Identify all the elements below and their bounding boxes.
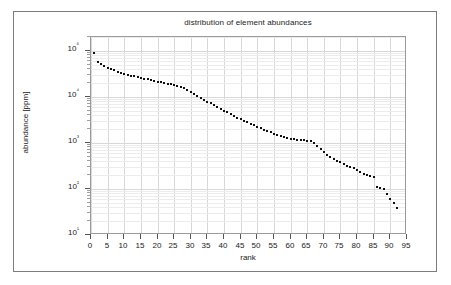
data-point xyxy=(93,52,95,54)
data-point xyxy=(296,139,298,141)
data-point xyxy=(193,93,195,95)
x-axis-tick xyxy=(323,234,324,239)
x-axis-tick xyxy=(273,234,274,239)
data-point xyxy=(303,139,305,141)
data-point xyxy=(173,84,175,86)
data-point xyxy=(300,139,302,141)
data-point xyxy=(389,198,391,200)
data-point xyxy=(329,156,331,158)
data-point xyxy=(140,77,142,79)
data-point xyxy=(276,134,278,136)
data-point xyxy=(117,71,119,73)
grid-line-horizontal-minor xyxy=(91,221,405,222)
data-point xyxy=(210,102,212,104)
data-point xyxy=(369,175,371,177)
data-point xyxy=(336,160,338,162)
grid-line-horizontal-minor xyxy=(91,83,405,84)
grid-line-horizontal-minor xyxy=(91,213,405,214)
data-point xyxy=(176,85,178,87)
x-axis-tick xyxy=(123,234,124,239)
data-point xyxy=(130,75,132,77)
grid-line-horizontal-minor xyxy=(91,37,405,38)
data-point xyxy=(233,115,235,117)
data-point xyxy=(253,124,255,126)
data-point xyxy=(383,188,385,190)
grid-line-horizontal xyxy=(91,51,405,52)
x-axis-tick xyxy=(373,234,374,239)
grid-line-horizontal-minor xyxy=(91,203,405,204)
x-axis-tick-label: 95 xyxy=(394,241,418,250)
x-axis-tick xyxy=(223,234,224,239)
data-point xyxy=(290,138,292,140)
data-point xyxy=(353,167,355,169)
data-point xyxy=(366,174,368,176)
x-axis-tick xyxy=(356,234,357,239)
data-point xyxy=(196,95,198,97)
data-point xyxy=(339,161,341,163)
grid-line-horizontal-minor xyxy=(91,101,405,102)
grid-line-horizontal xyxy=(91,143,405,144)
data-point xyxy=(200,97,202,99)
grid-line-horizontal-minor xyxy=(91,145,405,146)
grid-line-horizontal-minor xyxy=(91,99,405,100)
data-point xyxy=(123,73,125,75)
data-point xyxy=(293,138,295,140)
grid-line-horizontal-minor xyxy=(91,167,405,168)
grid-line-horizontal-minor xyxy=(91,129,405,130)
grid-line-horizontal-minor xyxy=(91,161,405,162)
grid-line-horizontal xyxy=(91,189,405,190)
data-point xyxy=(246,121,248,123)
data-point xyxy=(226,111,228,113)
grid-line-horizontal xyxy=(91,97,405,98)
x-axis-title: rank xyxy=(90,253,406,262)
grid-line-horizontal-minor xyxy=(91,104,405,105)
y-axis-tick-label: 10⁵ xyxy=(33,44,79,53)
y-axis-tick-label: 10² xyxy=(33,182,79,191)
x-axis-tick xyxy=(140,234,141,239)
figure-root: distribution of element abundances abund… xyxy=(0,0,451,285)
grid-line-horizontal-minor xyxy=(91,111,405,112)
x-axis-tick xyxy=(173,234,174,239)
x-axis-tick xyxy=(306,234,307,239)
x-axis-tick xyxy=(157,234,158,239)
x-axis-tick xyxy=(290,234,291,239)
data-point xyxy=(133,75,135,77)
x-axis-tick xyxy=(339,234,340,239)
plot-area xyxy=(90,36,406,234)
grid-line-horizontal-minor xyxy=(91,196,405,197)
grid-line-horizontal-minor xyxy=(91,150,405,151)
data-point xyxy=(283,136,285,138)
grid-line-horizontal-minor xyxy=(91,153,405,154)
grid-line-horizontal-minor xyxy=(91,107,405,108)
data-point xyxy=(236,117,238,119)
data-point xyxy=(160,81,162,83)
x-axis-tick xyxy=(107,234,108,239)
data-point xyxy=(379,187,381,189)
grid-line-horizontal-minor xyxy=(91,53,405,54)
data-point xyxy=(359,171,361,173)
grid-line-horizontal-minor xyxy=(91,69,405,70)
data-point xyxy=(356,169,358,171)
data-point xyxy=(256,126,258,128)
data-point xyxy=(100,63,102,65)
data-point xyxy=(220,108,222,110)
data-point xyxy=(273,133,275,135)
data-point xyxy=(110,68,112,70)
data-point xyxy=(147,78,149,80)
data-point xyxy=(103,65,105,67)
data-point xyxy=(223,110,225,112)
x-axis-tick xyxy=(406,234,407,239)
y-axis-title: abundance [ppm] xyxy=(21,68,30,178)
data-point xyxy=(250,123,252,125)
grid-line-horizontal-minor xyxy=(91,58,405,59)
data-point xyxy=(346,165,348,167)
data-point xyxy=(349,166,351,168)
grid-line-horizontal-minor xyxy=(91,147,405,148)
x-axis-tick xyxy=(240,234,241,239)
data-point xyxy=(113,69,115,71)
data-point xyxy=(323,151,325,153)
data-point xyxy=(376,186,378,188)
data-point xyxy=(280,135,282,137)
grid-line-horizontal-minor xyxy=(91,199,405,200)
data-point xyxy=(137,76,139,78)
